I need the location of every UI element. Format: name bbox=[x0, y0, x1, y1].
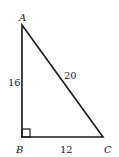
right-angle-marker bbox=[22, 129, 30, 137]
side-label-ab: 16 bbox=[8, 77, 21, 88]
vertex-label-a: A bbox=[18, 12, 26, 23]
vertex-label-b: B bbox=[15, 144, 23, 155]
side-label-ac: 20 bbox=[64, 70, 77, 81]
side-label-bc: 12 bbox=[60, 144, 73, 155]
triangle-abc bbox=[22, 25, 103, 137]
triangle-diagram: A B C 16 20 12 bbox=[0, 0, 119, 157]
vertex-label-c: C bbox=[104, 144, 112, 155]
